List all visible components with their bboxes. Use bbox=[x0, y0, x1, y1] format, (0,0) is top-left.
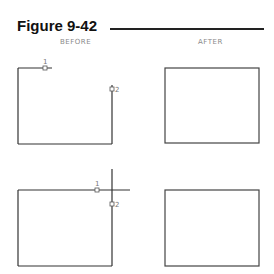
diagram-canvas: 1 2 1 2 bbox=[0, 0, 274, 274]
pick-point-1-marker: 1 bbox=[95, 180, 99, 192]
pick-point-1-label: 1 bbox=[43, 58, 47, 66]
pick-point-2-label: 2 bbox=[115, 201, 119, 209]
before-bottom-shape bbox=[18, 169, 130, 266]
after-top-rectangle bbox=[165, 68, 259, 143]
pick-point-2-label: 2 bbox=[115, 86, 119, 94]
pick-point-1-marker: 1 bbox=[43, 58, 47, 70]
before-top-shape bbox=[18, 68, 112, 144]
after-bottom-rectangle bbox=[165, 190, 259, 266]
pick-point-1-label: 1 bbox=[95, 180, 99, 188]
